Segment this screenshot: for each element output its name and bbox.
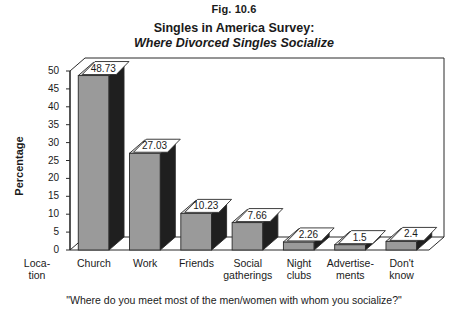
bar-front-face [181, 213, 212, 250]
y-axis-tick-label: 0 [29, 245, 59, 255]
y-axis-tick-label: 40 [29, 102, 59, 112]
x-axis-category-label: Don't know [375, 258, 429, 281]
bar-value-label: 7.66 [240, 211, 274, 221]
bar-value-label: 2.26 [291, 230, 325, 240]
x-axis-category-label: Work [118, 258, 172, 270]
y-axis-tick-label: 15 [29, 191, 59, 201]
x-axis-category-label: Friends [170, 258, 224, 270]
chart-title-line1: Singles in America Survey: [0, 21, 468, 35]
y-axis-title: Percentage [13, 116, 25, 216]
x-axis-category-label: Night clubs [272, 258, 326, 281]
bar-value-label: 48.73 [86, 64, 120, 74]
y-axis-tick-label: 50 [29, 66, 59, 76]
y-axis-tick-label: 10 [29, 209, 59, 219]
y-axis-tick-label: 5 [29, 227, 59, 237]
figure-number: Fig. 10.6 [0, 3, 468, 15]
bar-side-face [109, 63, 124, 250]
x-axis-category-label: Church [67, 258, 121, 270]
bar-value-label: 27.03 [138, 141, 172, 151]
bar-front-face [283, 242, 314, 250]
y-axis-tick-label: 20 [29, 173, 59, 183]
chart-title-line2: Where Divorced Singles Socialize [0, 36, 468, 50]
x-axis-origin-label: Loca- tion [8, 258, 66, 281]
y-axis-tick-label: 45 [29, 84, 59, 94]
bar-front-face [335, 245, 366, 250]
y-axis-tick-label: 30 [29, 138, 59, 148]
bar-front-face [130, 153, 161, 250]
figure-caption: "Where do you meet most of the men/women… [0, 294, 468, 306]
bar-side-face [160, 140, 175, 250]
x-axis-category-label: Advertise- ments [323, 258, 377, 281]
x-axis-category-label: Social gatherings [221, 258, 275, 281]
bar-front-face [78, 76, 109, 250]
bar-front-face [386, 241, 417, 250]
y-axis-tick-label: 35 [29, 120, 59, 130]
bar-value-label: 10.23 [189, 201, 223, 211]
figure-container: Fig. 10.6 Singles in America Survey: Whe… [0, 0, 468, 319]
bar-front-face [232, 223, 263, 250]
y-axis-tick-label: 25 [29, 156, 59, 166]
plot-area: Percentage 05101520253035404550 48.7327.… [0, 50, 468, 265]
bar-value-label: 2.4 [394, 229, 428, 239]
bar-value-label: 1.5 [343, 233, 377, 243]
